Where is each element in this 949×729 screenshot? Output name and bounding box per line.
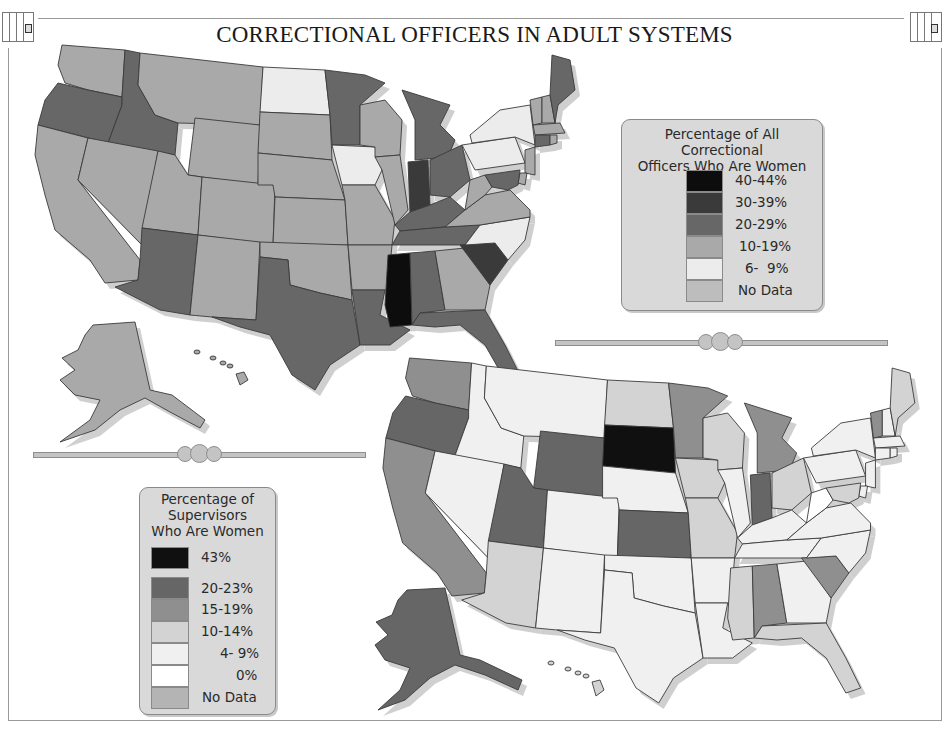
legend-label: No Data xyxy=(738,282,793,298)
legend-swatch xyxy=(151,599,189,621)
circles-ornament xyxy=(727,334,743,350)
legend-title: Percentage of All Correctional Officers … xyxy=(622,126,822,174)
legend-swatch xyxy=(151,547,189,569)
legend-swatch xyxy=(686,236,723,258)
legend-swatch xyxy=(686,170,723,192)
legend-swatch xyxy=(151,643,189,665)
legend-label: 0% xyxy=(236,667,257,683)
legend-swatch xyxy=(151,621,189,643)
legend-swatch xyxy=(686,258,723,280)
legend-label: 20-23% xyxy=(201,580,253,596)
legend-label: 6- 9% xyxy=(745,260,788,276)
legend-label: 30-39% xyxy=(735,194,787,210)
legend-label: No Data xyxy=(202,689,257,705)
legend-label: 20-29% xyxy=(735,216,787,232)
legend-swatch xyxy=(151,687,189,709)
legend-officers: Percentage of All Correctional Officers … xyxy=(621,119,823,311)
legend-swatch xyxy=(686,214,723,236)
legend-label: 4- 9% xyxy=(220,645,259,661)
legend-label: 43% xyxy=(201,549,231,565)
legend-swatch xyxy=(151,665,189,687)
circles-ornament xyxy=(206,446,222,462)
legend-swatch xyxy=(686,280,723,302)
legend-label: 40-44% xyxy=(735,172,787,188)
legend-label: 10-14% xyxy=(201,623,253,639)
legend-swatch xyxy=(686,192,723,214)
officers-map-alaska xyxy=(60,322,248,448)
legend-label: 10-19% xyxy=(739,238,791,254)
legend-swatch xyxy=(151,577,189,599)
legend-supervisors: Percentage of Supervisors Who Are Women … xyxy=(139,487,276,715)
legend-title: Percentage of Supervisors Who Are Women xyxy=(140,491,275,539)
legend-label: 15-19% xyxy=(201,601,253,617)
